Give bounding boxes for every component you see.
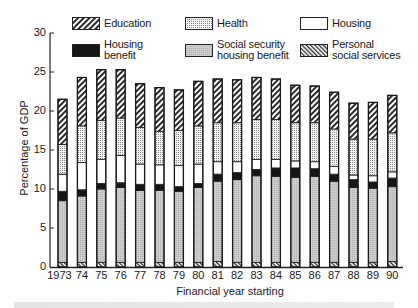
bar-segment-health bbox=[368, 139, 377, 176]
bar-segment-personal-social-services bbox=[330, 262, 339, 267]
bar-segment-education bbox=[368, 102, 377, 139]
bar-segment-personal-social-services bbox=[136, 262, 145, 267]
bar-segment-housing bbox=[136, 164, 145, 184]
bar-1973 bbox=[58, 99, 67, 267]
clipped-caption bbox=[14, 302, 394, 308]
bar-segment-health bbox=[77, 126, 86, 163]
bar-83 bbox=[252, 77, 261, 267]
legend-label-housing-benefit: Housing benefit bbox=[104, 39, 143, 61]
bar-segment-social-security-housing-benefit bbox=[136, 191, 145, 263]
bar-segment-social-security-housing-benefit bbox=[233, 180, 242, 263]
bar-segment-health bbox=[330, 129, 339, 166]
legend-label-line2: social services bbox=[332, 49, 401, 61]
bar-segment-housing-benefit bbox=[213, 174, 222, 181]
bar-78 bbox=[155, 88, 164, 267]
bar-segment-personal-social-services bbox=[233, 262, 242, 267]
bar-segment-personal-social-services bbox=[252, 262, 261, 267]
bar-segment-housing-benefit bbox=[194, 184, 203, 188]
y-axis-label: Percentage of GDP bbox=[18, 88, 30, 208]
bar-segment-personal-social-services bbox=[97, 262, 106, 267]
bar-segment-housing bbox=[194, 164, 203, 184]
bar-segment-education bbox=[58, 99, 67, 144]
legend-label-line2: benefit bbox=[104, 49, 136, 61]
bar-segment-social-security-housing-benefit bbox=[155, 191, 164, 263]
y-tick-label: 5 bbox=[26, 221, 46, 233]
bar-segment-social-security-housing-benefit bbox=[252, 176, 261, 263]
bar-segment-housing bbox=[116, 155, 125, 182]
legend-label-housing: Housing bbox=[332, 18, 371, 29]
bar-84 bbox=[271, 79, 280, 267]
bar-segment-education bbox=[116, 70, 125, 118]
bar-79 bbox=[174, 90, 183, 267]
legend-label-line2: housing benefit bbox=[217, 49, 289, 61]
legend-item-housing-benefit: Housing benefit bbox=[72, 39, 143, 61]
bar-segment-social-security-housing-benefit bbox=[194, 187, 203, 262]
bar-segment-health bbox=[388, 133, 397, 172]
bar-segment-housing bbox=[155, 165, 164, 185]
bar-segment-housing-benefit bbox=[368, 182, 377, 188]
bar-segment-education bbox=[97, 70, 106, 121]
bar-segment-education bbox=[252, 77, 261, 119]
bar-segment-housing-benefit bbox=[310, 169, 319, 177]
bar-segment-education bbox=[77, 77, 86, 125]
bar-segment-social-security-housing-benefit bbox=[271, 177, 280, 263]
legend-item-pss: Personal social services bbox=[300, 39, 401, 61]
bar-segment-housing bbox=[174, 166, 183, 187]
x-axis-label: Financial year starting bbox=[130, 285, 330, 297]
bar-segment-personal-social-services bbox=[58, 262, 67, 267]
bar-segment-personal-social-services bbox=[174, 262, 183, 267]
bar-segment-education bbox=[174, 90, 183, 131]
bar-segment-housing-benefit bbox=[174, 187, 183, 192]
bar-segment-health bbox=[174, 131, 183, 166]
bar-86 bbox=[310, 86, 319, 267]
bar-segment-personal-social-services bbox=[291, 262, 300, 267]
bar-segment-personal-social-services bbox=[116, 262, 125, 267]
education-swatch-icon bbox=[72, 17, 100, 30]
bar-77 bbox=[136, 84, 145, 267]
bar-segment-housing bbox=[349, 175, 358, 180]
bar-76 bbox=[116, 70, 125, 267]
bar-segment-housing-benefit bbox=[252, 170, 261, 176]
bar-segment-housing-benefit bbox=[58, 191, 67, 200]
bar-88 bbox=[349, 103, 358, 267]
bar-segment-social-security-housing-benefit bbox=[213, 181, 222, 261]
bar-segment-education bbox=[136, 84, 145, 128]
bar-segment-housing bbox=[330, 166, 339, 174]
legend-label-education: Education bbox=[104, 18, 151, 29]
bar-segment-health bbox=[252, 120, 261, 160]
bar-segment-personal-social-services bbox=[155, 262, 164, 267]
bar-segment-housing bbox=[310, 162, 319, 169]
bar-segment-education bbox=[213, 79, 222, 123]
bar-segment-housing-benefit bbox=[271, 168, 280, 177]
legend-label-health: Health bbox=[217, 18, 248, 29]
bar-segment-housing bbox=[97, 159, 106, 183]
bar-segment-social-security-housing-benefit bbox=[116, 187, 125, 262]
bar-segment-housing bbox=[291, 161, 300, 168]
bar-segment-personal-social-services bbox=[194, 262, 203, 267]
bar-segment-health bbox=[349, 139, 358, 175]
bar-segment-housing bbox=[77, 162, 86, 189]
bar-segment-education bbox=[155, 88, 164, 132]
legend-item-housing: Housing bbox=[300, 17, 371, 30]
bar-segment-education bbox=[349, 103, 358, 139]
bar-80 bbox=[194, 81, 203, 267]
bar-segment-housing-benefit bbox=[77, 190, 86, 196]
bar-segment-education bbox=[330, 92, 339, 129]
legend-item-sshb: Social security housing benefit bbox=[185, 39, 289, 61]
bar-segment-housing bbox=[252, 159, 261, 169]
bar-segment-health bbox=[58, 145, 67, 175]
housing-benefit-swatch-icon bbox=[72, 44, 100, 57]
bar-segment-education bbox=[388, 95, 397, 132]
bar-segment-housing-benefit bbox=[116, 183, 125, 188]
bar-segment-social-security-housing-benefit bbox=[330, 181, 339, 262]
bar-segment-education bbox=[291, 85, 300, 122]
bar-segment-social-security-housing-benefit bbox=[291, 177, 300, 262]
bar-82 bbox=[233, 80, 242, 267]
bar-85 bbox=[291, 85, 300, 267]
bar-segment-housing-benefit bbox=[233, 173, 242, 180]
bar-segment-health bbox=[213, 123, 222, 162]
bar-segment-social-security-housing-benefit bbox=[97, 189, 106, 262]
bar-segment-housing-benefit bbox=[388, 178, 397, 187]
bar-segment-personal-social-services bbox=[271, 262, 280, 267]
bar-segment-health bbox=[116, 118, 125, 155]
